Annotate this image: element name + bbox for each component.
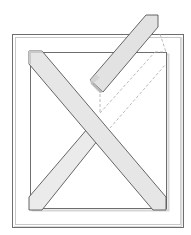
frame-brace-diagram xyxy=(0,0,191,235)
diagram-canvas xyxy=(0,0,191,235)
